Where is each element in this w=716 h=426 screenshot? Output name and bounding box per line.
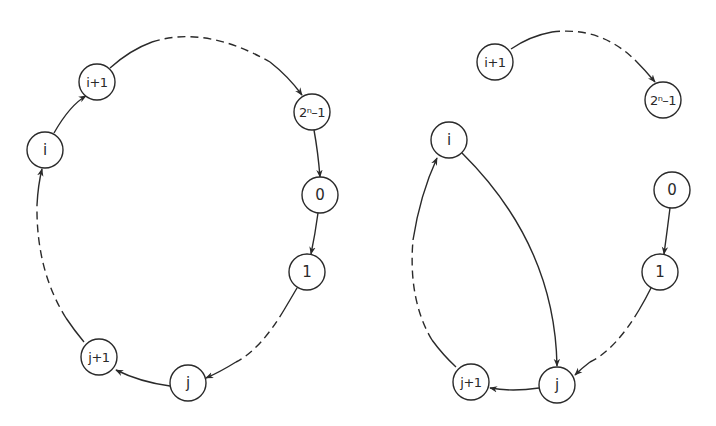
node-label: 1 <box>655 263 665 281</box>
node-label: j <box>554 376 559 394</box>
node-0: 0 <box>302 177 338 213</box>
node-label: i+1 <box>484 55 506 70</box>
edge-i+1-to-top-dashed <box>552 31 635 60</box>
diagram-canvas: i i+1 2ⁿ–1 0 1 j j+1 <box>0 0 716 426</box>
edge-i+1-to-top-solid-b <box>270 62 302 95</box>
node-label: 1 <box>302 263 312 281</box>
node-2n-1: 2ⁿ–1 <box>645 82 681 118</box>
edge-i-to-i+1 <box>54 96 86 133</box>
edge-1-to-j-solid-a <box>639 288 651 310</box>
edge-1-to-j-solid-b <box>206 362 236 378</box>
node-label: 0 <box>667 181 677 199</box>
node-j: j <box>170 365 206 401</box>
edge-top-to-0 <box>314 130 320 177</box>
edge-0-to-1 <box>311 213 318 254</box>
node-2n-1: 2ⁿ–1 <box>294 94 330 130</box>
right-panel: i+1 2ⁿ–1 i 0 1 j j+1 <box>412 31 690 403</box>
node-label: j+1 <box>459 375 482 390</box>
edge-1-to-j-dashed <box>236 310 284 362</box>
node-label: 0 <box>315 186 325 204</box>
edge-j+1-to-i-solid-b <box>413 158 437 240</box>
left-panel: i i+1 2ⁿ–1 0 1 j j+1 <box>27 37 338 401</box>
node-label: 2ⁿ–1 <box>650 93 676 108</box>
edge-j+1-to-i-dashed <box>37 205 66 318</box>
edge-j-to-j+1 <box>490 388 539 390</box>
node-label: i <box>43 141 47 159</box>
node-label: i <box>447 131 451 149</box>
node-i+1: i+1 <box>477 44 513 80</box>
edge-i+1-to-top-solid-a <box>110 42 152 68</box>
node-label: j <box>185 374 190 392</box>
edge-1-to-j-solid-a <box>284 288 297 310</box>
node-i: i <box>27 132 63 168</box>
node-j+1: j+1 <box>81 339 117 375</box>
edge-i-to-j <box>462 153 557 366</box>
node-label: 2ⁿ–1 <box>299 105 325 120</box>
edge-1-to-j-solid-b <box>575 362 590 375</box>
edge-i+1-to-top-dashed <box>152 37 270 62</box>
node-1: 1 <box>289 254 325 290</box>
edge-j+1-to-i-solid-a <box>432 340 456 367</box>
edge-i+1-to-top-solid-b <box>635 60 655 82</box>
node-1: 1 <box>642 254 678 290</box>
edge-j+1-to-i-solid-a <box>66 318 84 342</box>
node-i: i <box>431 122 467 158</box>
edge-i+1-to-top-solid-a <box>511 32 552 49</box>
node-j+1: j+1 <box>453 364 489 400</box>
node-0: 0 <box>654 172 690 208</box>
edge-j+1-to-i-solid-b <box>37 169 42 205</box>
edge-0-to-1 <box>664 208 670 254</box>
node-label: j+1 <box>87 350 110 365</box>
edge-1-to-j-dashed <box>590 310 639 362</box>
edge-j-to-j+1 <box>116 370 170 386</box>
edge-j+1-to-i-dashed <box>412 240 432 340</box>
node-label: i+1 <box>86 75 108 90</box>
node-i+1: i+1 <box>79 64 115 100</box>
node-j: j <box>539 367 575 403</box>
